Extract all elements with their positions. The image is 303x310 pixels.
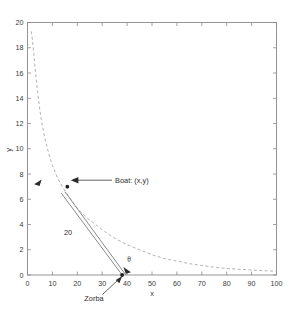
figure-background (0, 0, 303, 310)
figure-canvas: 0102030405060708090100 02468101214161820… (0, 0, 303, 310)
y-tick-label: 0 (20, 271, 24, 280)
boat-marker (65, 185, 69, 189)
plot-area: 0102030405060708090100 02468101214161820… (0, 0, 303, 310)
theta-annotation-label: θ (127, 255, 131, 264)
y-tick-label: 16 (16, 69, 24, 78)
y-tick-label: 2 (20, 245, 24, 254)
x-tick-label: 40 (123, 279, 131, 288)
y-tick-label: 12 (16, 119, 24, 128)
x-tick-label: 10 (48, 279, 56, 288)
y-tick-label: 8 (20, 170, 24, 179)
zorba-annotation-label: Zorba (84, 294, 104, 303)
x-tick-label: 50 (148, 279, 156, 288)
y-tick-label: 18 (16, 43, 24, 52)
x-tick-label: 20 (73, 279, 81, 288)
x-tick-label: 100 (271, 279, 283, 288)
x-tick-label: 80 (223, 279, 231, 288)
distance-annotation-label: 20 (64, 228, 72, 237)
y-tick-label: 4 (20, 220, 24, 229)
x-axis-label: x (150, 289, 154, 298)
y-tick-label: 6 (20, 195, 24, 204)
y-axis-label: y (4, 148, 13, 152)
y-tick-label: 14 (16, 94, 24, 103)
x-tick-label: 60 (173, 279, 181, 288)
x-tick-label: 0 (26, 279, 30, 288)
zorba-marker (120, 273, 124, 277)
x-tick-label: 70 (198, 279, 206, 288)
y-tick-label: 20 (16, 18, 24, 27)
x-tick-label: 30 (98, 279, 106, 288)
boat-annotation-label: Boat: (x,y) (115, 176, 149, 185)
x-tick-label: 90 (248, 279, 256, 288)
y-tick-label: 10 (16, 144, 24, 153)
